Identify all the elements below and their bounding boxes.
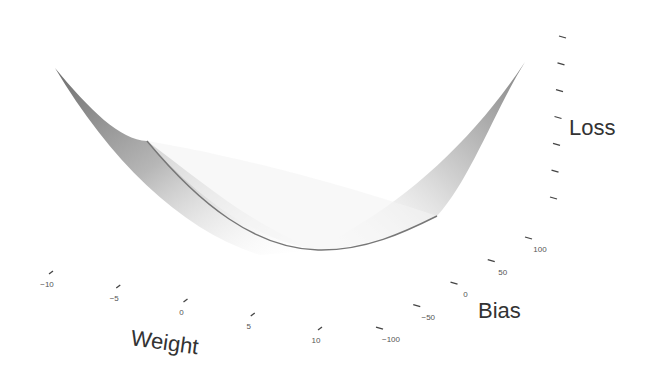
loss-tick [559, 36, 566, 38]
bias-tick-label: 0 [463, 290, 468, 299]
bias-tick-label: 50 [498, 268, 507, 277]
loss-tick [550, 197, 557, 199]
loss-surface-plot: −10−50510 −100−50050100 Weight Bias Loss [0, 0, 654, 370]
bias-tick-label: −100 [382, 335, 401, 344]
weight-tick-label: 0 [179, 308, 184, 317]
bias-tick-label: 100 [533, 245, 547, 254]
weight-axis-title: Weight [129, 325, 200, 359]
loss-tick [555, 117, 562, 119]
weight-tick [184, 299, 188, 302]
loss-tick [553, 143, 560, 145]
weight-tick [318, 327, 322, 330]
bias-tick [451, 282, 458, 284]
weight-tick-label: 10 [312, 336, 321, 345]
weight-tick [116, 285, 120, 288]
weight-tick [251, 313, 255, 316]
bias-tick [488, 260, 495, 262]
loss-tick [556, 90, 563, 92]
loss-axis [550, 36, 566, 199]
loss-tick [552, 170, 559, 172]
bias-tick [413, 305, 420, 307]
bias-tick [525, 237, 532, 239]
bias-tick [376, 327, 383, 329]
weight-tick-label: −5 [110, 294, 120, 303]
bias-axis-title: Bias [478, 298, 521, 323]
weight-tick-label: −10 [40, 280, 54, 289]
weight-tick-label: 5 [247, 322, 252, 331]
loss-axis-title: Loss [569, 115, 615, 140]
weight-tick [49, 271, 53, 274]
bias-axis: −100−50050100 [376, 237, 547, 344]
loss-tick [558, 63, 565, 65]
bias-tick-label: −50 [421, 313, 435, 322]
loss-surface [55, 62, 525, 255]
